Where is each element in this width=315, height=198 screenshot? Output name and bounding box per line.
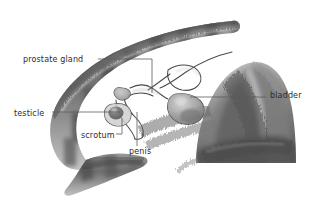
label-testicle: testicle — [14, 109, 44, 118]
label-scrotum: scrotum — [81, 131, 115, 140]
label-prostate-gland: prostate gland — [23, 55, 83, 64]
anatomy-artwork — [0, 0, 315, 198]
tract-shading — [104, 69, 204, 126]
label-bladder: bladder — [270, 91, 302, 100]
label-penis: penis — [129, 147, 151, 156]
illustration-canvas: prostate gland testicle scrotum penis bl… — [0, 0, 315, 198]
prostate-underside — [128, 93, 153, 96]
